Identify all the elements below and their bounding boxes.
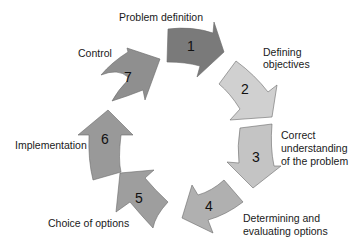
step-number-3: 3 bbox=[252, 149, 260, 165]
label-step-3-line-3: of the problem bbox=[281, 155, 348, 167]
step-number-5: 5 bbox=[135, 190, 143, 206]
step-number-1: 1 bbox=[187, 38, 195, 54]
step-number-7: 7 bbox=[124, 69, 132, 85]
label-step-4-line-2: evaluating options bbox=[243, 225, 328, 237]
step-number-2: 2 bbox=[241, 81, 249, 97]
label-step-3-line-2: understanding bbox=[281, 142, 348, 154]
label-step-6: Implementation bbox=[15, 139, 87, 151]
label-step-2-line-1: Defining bbox=[263, 46, 302, 58]
step-number-4: 4 bbox=[205, 198, 213, 214]
step-number-6: 6 bbox=[101, 131, 109, 147]
label-step-3-line-1: Correct bbox=[281, 129, 315, 141]
label-step-2-line-2: objectives bbox=[263, 58, 310, 70]
arrow-step-1 bbox=[167, 22, 224, 77]
label-step-1: Problem definition bbox=[119, 11, 203, 23]
label-step-5: Choice of options bbox=[48, 217, 129, 229]
label-step-4-line-1: Determining and bbox=[243, 212, 320, 224]
label-step-7: Control bbox=[78, 47, 112, 59]
